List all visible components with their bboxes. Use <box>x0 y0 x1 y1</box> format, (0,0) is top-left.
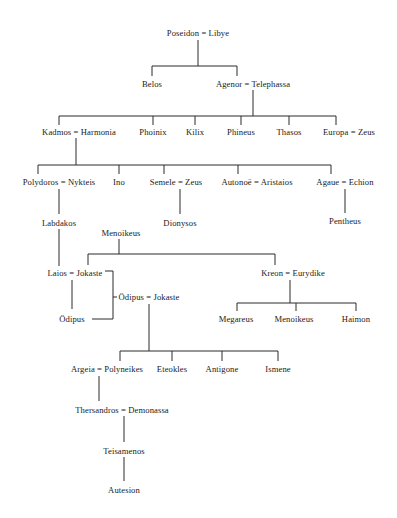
connector-lines <box>0 0 397 518</box>
node-ino: Ino <box>113 177 125 187</box>
node-phoinix: Phoinix <box>139 127 166 137</box>
node-kadmos-harmonia: Kadmos = Harmonia <box>42 127 116 137</box>
node-thasos: Thasos <box>277 127 302 137</box>
node-ismene: Ismene <box>265 364 290 374</box>
node-agaue-echion: Agaue = Echion <box>316 177 373 187</box>
node-polydoros-nykteis: Polydoros = Nykteis <box>23 177 96 187</box>
node-megareus: Megareus <box>219 314 254 324</box>
node-odipus-jokaste: Ödipus = Jokaste <box>119 292 180 302</box>
node-phineus: Phineus <box>227 127 255 137</box>
node-pentheus: Pentheus <box>329 216 361 226</box>
node-europa-zeus: Europa = Zeus <box>323 127 375 137</box>
node-argeia-polyneikes: Argeia = Polyneikes <box>71 364 143 374</box>
node-dionysos: Dionysos <box>163 218 196 228</box>
node-labdakos: Labdakos <box>42 218 76 228</box>
node-belos: Belos <box>142 79 162 89</box>
node-kilix: Kilix <box>186 127 204 137</box>
node-autonoe-aristaios: Autonoë = Aristaios <box>221 177 292 187</box>
node-haimon: Haimon <box>342 314 370 324</box>
node-eteokles: Eteokles <box>157 364 187 374</box>
node-menoikeus: Menoikeus <box>101 228 140 238</box>
node-menoikeus-2: Menoikeus <box>274 314 313 324</box>
node-poseidon-libye: Poseidon = Libye <box>167 28 229 38</box>
node-kreon-eurydike: Kreon = Eurydike <box>261 268 325 278</box>
node-laios-jokaste: Laios = Jokaste <box>47 268 102 278</box>
genealogy-diagram: Poseidon = Libye Belos Agenor = Telephas… <box>0 0 397 518</box>
node-agenor-telephassa: Agenor = Telephassa <box>216 79 290 89</box>
node-autesion: Autesion <box>108 485 140 495</box>
node-teisamenos: Teisamenos <box>103 446 144 456</box>
node-odipus-son: Ödipus <box>59 314 84 324</box>
node-thersandros-demonassa: Thersandros = Demonassa <box>75 405 169 415</box>
node-antigone: Antigone <box>206 364 239 374</box>
node-semele-zeus: Semele = Zeus <box>150 177 202 187</box>
